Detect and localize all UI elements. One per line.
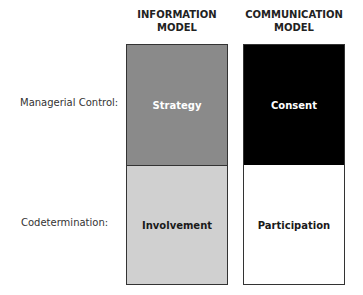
cell-consent: Consent: [244, 45, 344, 165]
communication-model-box: Consent Participation: [243, 44, 345, 285]
information-model-box: Strategy Involvement: [126, 44, 228, 285]
column-header-line1: INFORMATION: [122, 8, 232, 21]
column-header-communication-model: COMMUNICATION MODEL: [235, 8, 353, 34]
row-label-managerial-control: Managerial Control:: [20, 97, 118, 108]
cell-involvement: Involvement: [127, 166, 227, 284]
cell-participation: Participation: [244, 166, 344, 284]
cell-participation-label: Participation: [258, 220, 330, 231]
column-header-line2: MODEL: [122, 21, 232, 34]
column-header-information-model: INFORMATION MODEL: [122, 8, 232, 34]
cell-involvement-label: Involvement: [142, 220, 212, 231]
column-header-line2: MODEL: [235, 21, 353, 34]
cell-consent-label: Consent: [271, 100, 317, 111]
row-label-codetermination: Codetermination:: [21, 217, 108, 228]
cell-strategy: Strategy: [127, 45, 227, 166]
column-header-line1: COMMUNICATION: [235, 8, 353, 21]
cell-strategy-label: Strategy: [153, 100, 202, 111]
